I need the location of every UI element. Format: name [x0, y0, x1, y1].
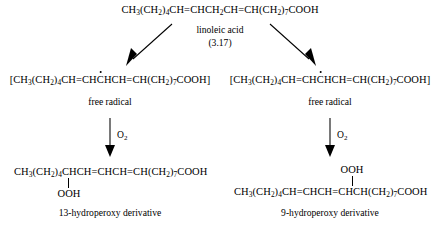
reactant-number: (3.17) — [208, 38, 231, 48]
left-intermediate-formula: [CH3(CH2)4CH=CHCHCH=CH(CH2)7COOH] — [10, 74, 211, 86]
arrow-to-right-radical — [262, 22, 322, 68]
reactant-formula: CH3(CH2)4CH=CHCH2CH=CH(CH2)7COOH — [121, 4, 318, 16]
reactant-name: linoleic acid — [196, 25, 243, 35]
left-product-formula: CH3(CH2)4CHCH=CHCH=CH(CH2)7COOH — [14, 166, 207, 178]
radical-dot-icon — [99, 71, 101, 73]
left-product-substituent: OOH — [57, 188, 80, 199]
left-oxygen-reagent: O2 — [117, 130, 127, 142]
left-product-bond — [68, 178, 69, 188]
left-product-caption: 13-hydroperoxy derivative — [59, 208, 162, 218]
arrow-right-oxygen — [324, 118, 338, 158]
right-product-bond — [352, 176, 353, 186]
right-product-substituent: OOH — [340, 164, 363, 175]
arrow-left-oxygen — [104, 118, 118, 158]
right-product-caption: 9-hydroperoxy derivative — [281, 208, 379, 218]
right-intermediate-label: free radical — [308, 97, 351, 107]
right-oxygen-reagent: O2 — [337, 130, 347, 142]
radical-dot-icon — [319, 71, 321, 73]
radical-dot-carbon-right: C — [317, 74, 324, 85]
radical-dot-carbon-left: C — [97, 74, 104, 85]
left-intermediate-label: free radical — [88, 97, 131, 107]
reaction-scheme: CH3(CH2)4CH=CHCH2CH=CH(CH2)7COOH linolei… — [0, 0, 441, 237]
right-product-formula: CH3(CH2)4CH=CHCH=CHCH(CH2)7COOH — [234, 186, 427, 198]
right-intermediate-formula: [CH3(CH2)4CH=CHCHCH=CH(CH2)7COOH] — [230, 74, 431, 86]
arrow-to-left-radical — [120, 22, 180, 68]
